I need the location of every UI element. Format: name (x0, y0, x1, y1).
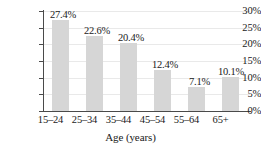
bar-25-34 (86, 36, 103, 111)
bar-value-45-54: 12.4% (152, 59, 178, 70)
bar-value-55-64: 7.1% (189, 76, 210, 87)
bar-35-44 (120, 43, 137, 111)
bar-value-65-plus: 10.1% (218, 66, 244, 77)
y-tick-label-25: 25% (223, 23, 261, 33)
y-tick-label-20: 20% (223, 39, 261, 49)
gridline-5 (44, 94, 250, 95)
bar-45-54 (154, 70, 171, 111)
x-tick-label-45-54: 45–54 (134, 114, 171, 126)
gridline-20 (44, 44, 250, 45)
y-tick-label-30: 30% (223, 6, 261, 16)
bar-55-64 (188, 87, 205, 111)
y-tick-20 (39, 44, 44, 45)
y-tick-5 (39, 94, 44, 95)
gridline-10 (44, 78, 250, 79)
x-tick-label-25-34: 25–34 (66, 114, 103, 126)
y-tick-label-15: 15% (223, 56, 261, 66)
x-tick-label-15-24: 15–24 (32, 114, 69, 126)
gridline-15 (44, 61, 250, 62)
y-tick-label-5: 5% (223, 89, 261, 99)
x-tick-label-55-64: 55–64 (168, 114, 205, 126)
bar-value-25-34: 22.6% (84, 25, 110, 36)
x-tick-label-65-plus: 65+ (202, 114, 239, 126)
plot-area (44, 11, 250, 111)
y-tick-25 (39, 28, 44, 29)
y-tick-10 (39, 78, 44, 79)
gridline-25 (44, 28, 250, 29)
x-axis-title: Age (years) (0, 131, 261, 144)
bar-15-24 (52, 20, 69, 111)
y-tick-15 (39, 61, 44, 62)
bar-value-35-44: 20.4% (118, 32, 144, 43)
bar-chart: 30% 25% 20% 15% 10% 5% 0% 27.4% 22.6% 20… (0, 0, 261, 152)
x-tick-label-35-44: 35–44 (100, 114, 137, 126)
y-tick-30 (39, 11, 44, 12)
y-tick-0 (39, 111, 44, 112)
x-axis-line (43, 111, 251, 112)
bar-value-15-24: 27.4% (50, 9, 76, 20)
